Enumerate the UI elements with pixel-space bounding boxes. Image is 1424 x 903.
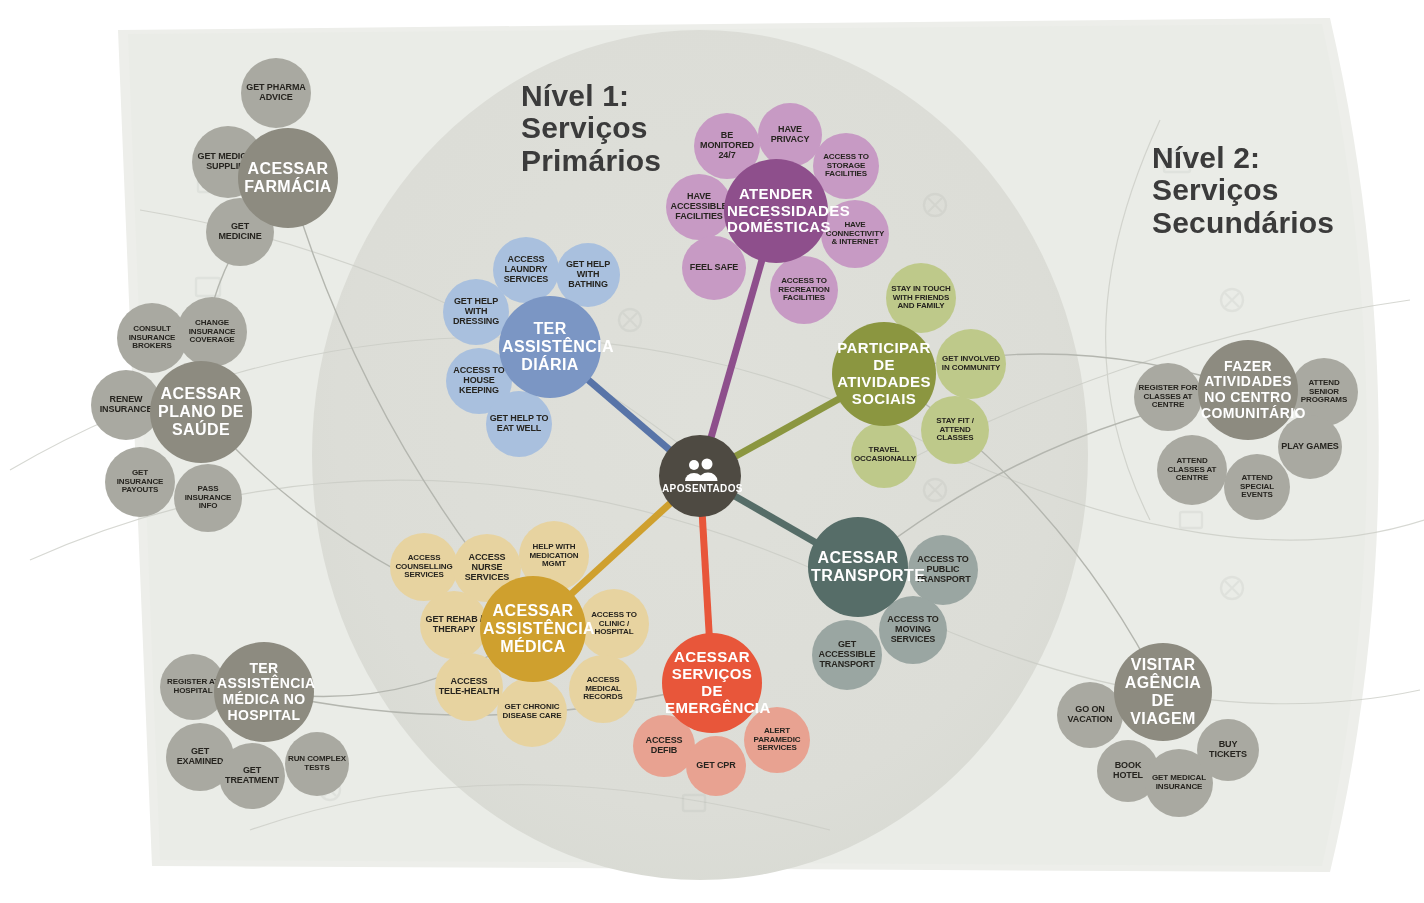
hub-node-assistencia-medica[interactable]: ACESSAR ASSISTÊNCIA MÉDICA [480,576,586,682]
infographic-canvas: Nível 1: Serviços Primários Nível 2: Ser… [0,0,1424,903]
satellite-node-necessidades-domesticas-3-label: HAVE ACCESSIBLE FACILITIES [666,192,732,221]
satellite-node-atividades-sociais-0-label: STAY IN TOUCH WITH FRIENDS AND FAMILY [886,285,956,311]
satellite-node-transporte-2[interactable]: GET ACCESSIBLE TRANSPORT [812,620,882,690]
satellite-node-assistencia-diaria-1-label: GET HELP WITH BATHING [556,260,620,289]
satellite-node-farmacia-0-label: GET PHARMA ADVICE [241,83,311,102]
satellite-node-hospital-3[interactable]: RUN COMPLEX TESTS [285,732,349,796]
satellite-node-assistencia-medica-3-label: GET REHAB / THERAPY [420,615,488,634]
satellite-node-centro-comunitario-2-label: ATTEND CLASSES AT CENTRE [1157,457,1227,483]
hub-node-assistencia-diaria-label: TER ASSISTÊNCIA DIÁRIA [499,320,601,374]
satellite-node-assistencia-medica-6[interactable]: GET CHRONIC DISEASE CARE [497,677,567,747]
satellite-node-farmacia-0[interactable]: GET PHARMA ADVICE [241,58,311,128]
hub-node-agencia-viagem-label: VISITAR AGÊNCIA DE VIAGEM [1114,656,1212,728]
hub-node-farmacia-label: ACESSAR FARMÁCIA [238,160,338,196]
satellite-node-farmacia-2-label: GET MEDICINE [206,222,274,241]
satellite-node-plano-saude-1[interactable]: CHANGE INSURANCE COVERAGE [177,297,247,367]
satellite-node-centro-comunitario-0-label: REGISTER FOR CLASSES AT CENTRE [1134,384,1202,410]
hub-node-assistencia-diaria[interactable]: TER ASSISTÊNCIA DIÁRIA [499,296,601,398]
satellite-node-assistencia-diaria-0-label: ACCESS LAUNDRY SERVICES [493,255,559,284]
satellite-node-assistencia-diaria-4-label: GET HELP TO EAT WELL [486,414,552,433]
satellite-node-emergencia-2[interactable]: ALERT PARAMEDIC SERVICES [744,707,810,773]
hub-node-hospital-label: TER ASSISTÊNCIA MÉDICA NO HOSPITAL [214,661,314,724]
satellite-node-atividades-sociais-1[interactable]: GET INVOLVED IN COMMUNITY [936,329,1006,399]
satellite-node-necessidades-domesticas-6-label: ACCESS TO RECREATION FACILITIES [770,277,838,303]
hub-node-necessidades-domesticas[interactable]: ATENDER NECESSIDADES DOMÉSTICAS [724,159,828,263]
satellite-node-centro-comunitario-1-label: ATTEND SENIOR PROGRAMS [1290,379,1358,405]
satellite-node-assistencia-medica-0-label: ACCESS COUNSELLING SERVICES [390,554,458,580]
satellite-node-emergencia-1-label: GET CPR [686,761,746,771]
satellite-node-centro-comunitario-4[interactable]: ATTEND SPECIAL EVENTS [1224,454,1290,520]
satellite-node-transporte-1-label: ACCESS TO MOVING SERVICES [879,615,947,644]
satellite-node-hospital-2-label: GET TREATMENT [219,766,285,785]
center-node-label: APOSENTADOS [659,483,741,494]
satellite-node-necessidades-domesticas-0-label: BE MONITORED 24/7 [694,131,760,160]
hub-node-plano-saude[interactable]: ACESSAR PLANO DE SAÚDE [150,361,252,463]
satellite-node-centro-comunitario-0[interactable]: REGISTER FOR CLASSES AT CENTRE [1134,363,1202,431]
satellite-node-assistencia-diaria-1[interactable]: GET HELP WITH BATHING [556,243,620,307]
satellite-node-centro-comunitario-3[interactable]: PLAY GAMES [1278,415,1342,479]
satellite-node-assistencia-medica-6-label: GET CHRONIC DISEASE CARE [497,703,567,720]
satellite-node-atividades-sociais-1-label: GET INVOLVED IN COMMUNITY [936,355,1006,372]
hub-node-atividades-sociais-label: PARTICIPAR DE ATIVIDADES SOCIAIS [832,340,936,407]
satellite-node-plano-saude-3-label: GET INSURANCE PAYOUTS [105,469,175,495]
satellite-node-centro-comunitario-4-label: ATTEND SPECIAL EVENTS [1224,474,1290,500]
satellite-node-necessidades-domesticas-4-label: HAVE CONNECTIVITY & INTERNET [821,221,889,247]
satellite-node-assistencia-medica-5-label: ACCESS TELE-HEALTH [435,677,503,696]
hub-node-farmacia[interactable]: ACESSAR FARMÁCIA [238,128,338,228]
satellite-node-atividades-sociais-0[interactable]: STAY IN TOUCH WITH FRIENDS AND FAMILY [886,263,956,333]
satellite-node-centro-comunitario-3-label: PLAY GAMES [1278,442,1342,452]
hub-node-transporte-label: ACESSAR TRANSPORTE [808,549,908,585]
level-1-heading: Nível 1: Serviços Primários [521,80,661,177]
hub-node-assistencia-medica-label: ACESSAR ASSISTÊNCIA MÉDICA [480,602,586,656]
hub-node-plano-saude-label: ACESSAR PLANO DE SAÚDE [150,385,252,439]
hub-node-emergencia[interactable]: ACESSAR SERVIÇOS DE EMERGÊNCIA [662,633,762,733]
satellite-node-assistencia-diaria-4[interactable]: GET HELP TO EAT WELL [486,391,552,457]
satellite-node-plano-saude-4[interactable]: PASS INSURANCE INFO [174,464,242,532]
satellite-node-necessidades-domesticas-5-label: FEEL SAFE [682,263,746,273]
satellite-node-plano-saude-4-label: PASS INSURANCE INFO [174,485,242,511]
satellite-node-atividades-sociais-2-label: STAY FIT / ATTEND CLASSES [921,417,989,443]
satellite-node-agencia-viagem-3[interactable]: BUY TICKETS [1197,719,1259,781]
satellite-node-hospital-2[interactable]: GET TREATMENT [219,743,285,809]
satellite-node-necessidades-domesticas-1-label: HAVE PRIVACY [758,125,822,144]
satellite-node-plano-saude-1-label: CHANGE INSURANCE COVERAGE [177,319,247,345]
satellite-node-necessidades-domesticas-3[interactable]: HAVE ACCESSIBLE FACILITIES [666,174,732,240]
satellite-node-emergencia-2-label: ALERT PARAMEDIC SERVICES [744,727,810,753]
hub-node-centro-comunitario-label: FAZER ATIVIDADES NO CENTRO COMUNITÁRIO [1198,359,1298,422]
satellite-node-assistencia-medica-7[interactable]: ACCESS MEDICAL RECORDS [569,655,637,723]
satellite-node-assistencia-medica-1-label: ACCESS NURSE SERVICES [453,553,521,582]
satellite-node-necessidades-domesticas-2-label: ACCESS TO STORAGE FACILITIES [813,153,879,179]
satellite-node-plano-saude-3[interactable]: GET INSURANCE PAYOUTS [105,447,175,517]
hub-node-centro-comunitario[interactable]: FAZER ATIVIDADES NO CENTRO COMUNITÁRIO [1198,340,1298,440]
hub-node-transporte[interactable]: ACESSAR TRANSPORTE [808,517,908,617]
hub-node-necessidades-domesticas-label: ATENDER NECESSIDADES DOMÉSTICAS [724,186,828,236]
hub-node-atividades-sociais[interactable]: PARTICIPAR DE ATIVIDADES SOCIAIS [832,322,936,426]
hub-node-agencia-viagem[interactable]: VISITAR AGÊNCIA DE VIAGEM [1114,643,1212,741]
satellite-node-hospital-3-label: RUN COMPLEX TESTS [285,755,349,772]
people-group-icon [680,458,720,482]
satellite-node-assistencia-medica-2-label: HELP WITH MEDICATION MGMT [519,543,589,569]
satellite-node-transporte-2-label: GET ACCESSIBLE TRANSPORT [812,640,882,669]
satellite-node-centro-comunitario-2[interactable]: ATTEND CLASSES AT CENTRE [1157,435,1227,505]
satellite-node-emergencia-0-label: ACCESS DEFIB [633,736,695,755]
level-2-heading: Nível 2: Serviços Secundários [1152,142,1334,239]
satellite-node-assistencia-medica-3[interactable]: GET REHAB / THERAPY [420,591,488,659]
hub-node-hospital[interactable]: TER ASSISTÊNCIA MÉDICA NO HOSPITAL [214,642,314,742]
satellite-node-atividades-sociais-3-label: TRAVEL OCCASIONALLY [851,446,917,463]
hub-node-emergencia-label: ACESSAR SERVIÇOS DE EMERGÊNCIA [662,649,762,716]
satellite-node-agencia-viagem-3-label: BUY TICKETS [1197,740,1259,759]
center-node-aposentados[interactable]: APOSENTADOS [659,435,741,517]
satellite-node-atividades-sociais-3[interactable]: TRAVEL OCCASIONALLY [851,422,917,488]
satellite-node-necessidades-domesticas-6[interactable]: ACCESS TO RECREATION FACILITIES [770,256,838,324]
satellite-node-emergencia-1[interactable]: GET CPR [686,736,746,796]
satellite-node-transporte-1[interactable]: ACCESS TO MOVING SERVICES [879,596,947,664]
satellite-node-assistencia-medica-7-label: ACCESS MEDICAL RECORDS [569,676,637,702]
satellite-node-agencia-viagem-2-label: GET MEDICAL INSURANCE [1145,774,1213,791]
